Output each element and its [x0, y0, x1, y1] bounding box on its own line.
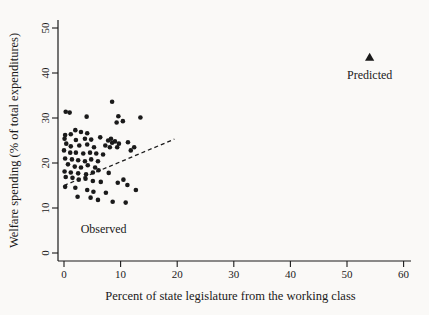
observed-point: [134, 188, 139, 193]
observed-point: [63, 109, 68, 114]
observed-point: [62, 148, 67, 153]
y-tick-label: 30: [39, 112, 51, 124]
observed-point: [84, 172, 89, 177]
y-tick-label: 20: [39, 157, 51, 169]
observed-point: [85, 163, 90, 168]
observed-point: [110, 199, 115, 204]
observed-point: [94, 151, 99, 156]
observed-point: [98, 135, 103, 140]
observed-point: [88, 195, 93, 200]
observed-point: [73, 185, 78, 190]
scatter-plot-figure: 010203040506001020304050ObservedPredicte…: [0, 0, 429, 315]
predicted-label: Predicted: [347, 68, 392, 82]
observed-point: [62, 136, 67, 141]
observed-point: [126, 140, 131, 145]
x-tick-label: 20: [172, 268, 184, 280]
observed-point: [77, 143, 82, 148]
x-tick-label: 60: [398, 268, 410, 280]
observed-point: [76, 158, 81, 163]
observed-point: [89, 157, 94, 162]
observed-point: [83, 136, 88, 141]
observed-point: [70, 157, 75, 162]
observed-point: [64, 141, 69, 146]
observed-point: [110, 140, 115, 145]
observed-point: [89, 137, 94, 142]
observed-point: [125, 183, 130, 188]
observed-point: [96, 159, 101, 164]
scatter-plot-canvas: 010203040506001020304050ObservedPredicte…: [0, 0, 429, 315]
observed-point: [98, 180, 103, 185]
observed-point: [96, 168, 101, 173]
observed-point: [67, 110, 72, 115]
observed-point: [73, 128, 78, 133]
observed-point: [108, 145, 113, 150]
observed-point: [68, 150, 73, 155]
observed-point: [70, 176, 75, 181]
observed-point: [128, 148, 133, 153]
observed-point: [92, 145, 97, 150]
observed-point: [83, 159, 88, 164]
observed-point: [76, 177, 81, 182]
observed-point: [106, 138, 111, 143]
observed-point: [106, 171, 111, 176]
observed-point: [110, 100, 115, 105]
y-axis-title: Welfare spending (% of total expenditure…: [7, 33, 21, 248]
observed-point: [66, 162, 71, 167]
observed-point: [123, 200, 128, 205]
observed-point: [68, 144, 73, 149]
x-tick-label: 0: [61, 268, 67, 280]
x-axis-title: Percent of state legislature from the wo…: [105, 289, 355, 303]
x-tick-label: 30: [228, 268, 240, 280]
observed-point: [88, 150, 93, 155]
observed-point: [104, 190, 109, 195]
y-tick-label: 10: [39, 202, 51, 214]
observed-point: [75, 194, 80, 199]
observed-point: [96, 198, 101, 203]
observed-point: [121, 177, 126, 182]
observed-point: [91, 190, 96, 195]
observed-point: [83, 176, 88, 181]
x-tick-label: 10: [115, 268, 127, 280]
observed-point: [74, 138, 79, 143]
observed-point: [91, 170, 96, 175]
observed-point: [72, 164, 77, 169]
observed-point: [62, 169, 67, 174]
observed-point: [63, 175, 68, 180]
observed-point: [84, 114, 89, 119]
observed-point: [68, 170, 73, 175]
observed-point: [121, 119, 126, 124]
x-tick-label: 40: [285, 268, 297, 280]
observed-point: [63, 185, 68, 190]
observed-point: [91, 179, 96, 184]
observed-point: [115, 145, 120, 150]
observed-point: [101, 152, 106, 157]
y-tick-label: 50: [39, 22, 51, 34]
observed-point: [74, 150, 79, 155]
observed-point: [85, 188, 90, 193]
observed-point: [114, 120, 119, 125]
observed-point: [76, 171, 81, 176]
observed-point: [85, 131, 90, 136]
observed-point: [115, 181, 120, 186]
observed-point: [85, 142, 90, 147]
y-tick-label: 40: [39, 67, 51, 79]
observed-point: [79, 165, 84, 170]
observed-point: [116, 114, 121, 119]
x-tick-label: 50: [342, 268, 354, 280]
observed-label: Observed: [81, 222, 127, 236]
observed-point: [138, 115, 143, 120]
observed-point: [63, 156, 68, 161]
observed-point: [79, 130, 84, 135]
observed-point: [103, 143, 108, 148]
observed-point: [132, 145, 137, 150]
y-tick-label: 0: [39, 250, 51, 256]
predicted-point-triangle: [365, 53, 374, 61]
observed-point: [68, 132, 73, 137]
observed-point: [81, 151, 86, 156]
